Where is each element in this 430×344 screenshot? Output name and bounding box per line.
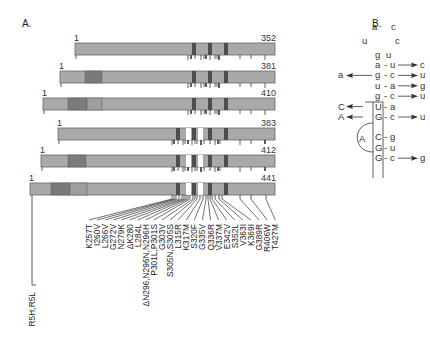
exon-insert bbox=[186, 128, 191, 140]
pair-dash: - bbox=[384, 152, 387, 163]
n-terminal-insert bbox=[68, 98, 87, 110]
isoform-bar: 1381 bbox=[59, 61, 276, 88]
exon-insert bbox=[198, 155, 203, 167]
base-right: a bbox=[390, 101, 396, 112]
microtubule-binding-repeat bbox=[192, 71, 196, 83]
microtubule-binding-repeat bbox=[208, 98, 212, 110]
microtubule-binding-repeat bbox=[208, 128, 212, 140]
start-residue-label: 1 bbox=[59, 61, 64, 71]
arrow-left-icon bbox=[346, 115, 353, 120]
microtubule-binding-repeat bbox=[192, 155, 196, 167]
isoform-bar: 1383 bbox=[57, 118, 276, 145]
arrow-right-icon bbox=[411, 115, 418, 120]
base-right: c bbox=[390, 90, 395, 101]
start-residue-label: 1 bbox=[42, 88, 47, 98]
arrow-right-icon bbox=[411, 63, 418, 68]
mutation-list: R5H,R5LK257TI260VL266VG272VN279KΔK280L28… bbox=[27, 195, 280, 326]
pair-dash: - bbox=[384, 80, 387, 91]
pair-dash: - bbox=[384, 111, 387, 122]
stem-loop-structure: acucgua-ucg-cuau-agg-cuU-aCG-cuAC-gG-uG-… bbox=[338, 21, 425, 178]
mutant-base: u bbox=[420, 90, 425, 101]
tau-isoform-diagram: 135213811410138314121441R5H,R5LK257TI260… bbox=[0, 0, 430, 344]
isoform-bar: 1441 bbox=[29, 173, 276, 195]
pair-dash: - bbox=[384, 90, 387, 101]
loop-nucleotide: c bbox=[395, 35, 400, 46]
n-terminal-insert bbox=[51, 183, 70, 195]
exon-insert bbox=[186, 155, 191, 167]
end-residue-label: 381 bbox=[261, 61, 276, 71]
base-left: G bbox=[375, 142, 382, 153]
arrow-left-icon bbox=[346, 73, 353, 78]
start-residue-label: 1 bbox=[57, 118, 62, 128]
microtubule-binding-repeat bbox=[224, 71, 228, 83]
end-residue-label: 441 bbox=[261, 173, 276, 183]
base-left: g bbox=[375, 69, 380, 80]
mutant-base: g bbox=[420, 80, 425, 91]
base-right: u bbox=[390, 59, 395, 70]
exon-insert bbox=[198, 128, 203, 140]
n-terminal-insert bbox=[70, 183, 87, 195]
base-right: g bbox=[390, 131, 395, 142]
arrow-left-icon bbox=[346, 104, 353, 109]
n-terminal-insert bbox=[87, 98, 102, 110]
arrow-right-icon bbox=[411, 83, 418, 88]
microtubule-binding-repeat bbox=[224, 98, 228, 110]
loop-nucleotide: a bbox=[372, 21, 378, 32]
pair-dash: - bbox=[384, 142, 387, 153]
end-residue-label: 352 bbox=[261, 33, 276, 43]
arrow-right-icon bbox=[411, 73, 418, 78]
base-right: u bbox=[390, 142, 395, 153]
pair-dash: - bbox=[384, 59, 387, 70]
mutation-label: T427M bbox=[270, 224, 280, 250]
microtubule-binding-repeat bbox=[224, 43, 228, 55]
mutant-base: A bbox=[338, 111, 345, 122]
microtubule-binding-repeat bbox=[224, 155, 228, 167]
isoform-bar: 1352 bbox=[74, 33, 276, 60]
end-residue-label: 383 bbox=[261, 118, 276, 128]
exon-insert bbox=[186, 183, 191, 195]
base-left: u bbox=[375, 80, 380, 91]
mutant-base: c bbox=[420, 59, 425, 70]
microtubule-binding-repeat bbox=[192, 128, 196, 140]
microtubule-binding-repeat bbox=[208, 43, 212, 55]
mutant-base: u bbox=[420, 111, 425, 122]
base-right: c bbox=[390, 69, 395, 80]
pair-dash: - bbox=[384, 69, 387, 80]
base-left: G bbox=[375, 111, 382, 122]
mutant-base: g bbox=[420, 152, 425, 163]
mutation-label: R5H,R5L bbox=[27, 292, 37, 327]
bulge-nucleotide: A bbox=[359, 133, 366, 144]
loop-nucleotide: u bbox=[362, 35, 367, 46]
base-left: g bbox=[375, 90, 380, 101]
microtubule-binding-repeat bbox=[192, 43, 196, 55]
start-residue-label: 1 bbox=[29, 173, 34, 183]
isoform-bar: 1410 bbox=[42, 88, 276, 115]
base-left: G bbox=[375, 152, 382, 163]
pair-dash: - bbox=[384, 131, 387, 142]
mutant-base: u bbox=[420, 69, 425, 80]
mutant-base: a bbox=[338, 69, 344, 80]
microtubule-binding-repeat bbox=[224, 183, 228, 195]
n-terminal-insert bbox=[85, 71, 102, 83]
pair-dash: - bbox=[384, 101, 387, 112]
microtubule-binding-repeat bbox=[176, 155, 180, 167]
arrow-right-icon bbox=[411, 156, 418, 161]
base-right: c bbox=[390, 152, 395, 163]
exon-insert bbox=[198, 183, 203, 195]
base-left: a bbox=[375, 59, 381, 70]
microtubule-binding-repeat bbox=[208, 155, 212, 167]
microtubule-binding-repeat bbox=[192, 183, 196, 195]
start-residue-label: 1 bbox=[74, 33, 79, 43]
microtubule-binding-repeat bbox=[208, 183, 212, 195]
base-right: a bbox=[390, 80, 396, 91]
mutant-base: C bbox=[338, 101, 345, 112]
microtubule-binding-repeat bbox=[224, 128, 228, 140]
microtubule-binding-repeat bbox=[176, 128, 180, 140]
loop-nucleotide: c bbox=[391, 21, 396, 32]
base-left: C bbox=[375, 131, 382, 142]
microtubule-binding-repeat bbox=[192, 98, 196, 110]
base-right: c bbox=[390, 111, 395, 122]
start-residue-label: 1 bbox=[40, 145, 45, 155]
end-residue-label: 410 bbox=[261, 88, 276, 98]
arrow-right-icon bbox=[411, 94, 418, 99]
